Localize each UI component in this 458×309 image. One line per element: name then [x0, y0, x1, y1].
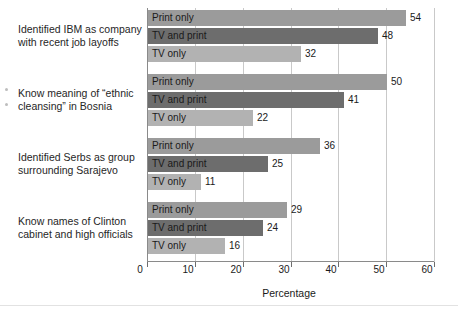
category-label-line: Know meaning of “ethnic: [18, 87, 144, 100]
bar-series-label: TV only: [152, 49, 186, 59]
x-axis-tick: [338, 262, 339, 267]
bar-value-label: 41: [348, 95, 359, 105]
bar-series-label: TV and print: [152, 95, 206, 105]
category-label-line: with recent job layoffs: [18, 36, 144, 49]
bar-value-label: 22: [257, 113, 268, 123]
bar-value-label: 32: [305, 49, 316, 59]
x-axis-tick-label: 50: [373, 264, 384, 275]
bar-value-label: 54: [410, 13, 421, 23]
bar: Print only54: [148, 10, 406, 26]
x-axis-title-text: Percentage: [142, 287, 316, 299]
bar-series-label: TV and print: [152, 159, 206, 169]
bar: TV and print41: [148, 92, 344, 108]
bar: TV only11: [148, 174, 201, 190]
bar-series-label: TV only: [152, 177, 186, 187]
bar-chart: Identified IBM as companywith recent job…: [0, 0, 458, 309]
x-axis-tick-label: 10: [182, 264, 193, 275]
bar: TV only32: [148, 46, 301, 62]
bar-series-label: TV and print: [152, 31, 206, 41]
category-label: Know meaning of “ethniccleansing” in Bos…: [18, 87, 144, 112]
bar-value-label: 36: [324, 141, 335, 151]
bar-series-label: TV only: [152, 241, 186, 251]
bar-series-label: Print only: [152, 141, 194, 151]
bar-series-label: Print only: [152, 13, 194, 23]
x-axis-tick: [147, 262, 148, 267]
gridline: [434, 8, 435, 262]
x-axis-tick: [434, 262, 435, 267]
scan-artifact: [5, 88, 8, 91]
bar: TV only16: [148, 238, 225, 254]
x-axis-tick-label: 60: [421, 264, 432, 275]
bar-series-label: TV only: [152, 113, 186, 123]
category-label-line: cleansing” in Bosnia: [18, 100, 144, 113]
x-axis-tick-label: 40: [325, 264, 336, 275]
category-label: Identified Serbs as groupsurrounding Sar…: [18, 151, 144, 176]
x-axis-tick: [195, 262, 196, 267]
bar-value-label: 50: [391, 77, 402, 87]
gridline: [386, 8, 387, 262]
category-label-line: Identified IBM as company: [18, 23, 144, 36]
category-label-line: surrounding Sarajevo: [18, 164, 144, 177]
x-axis-tick: [291, 262, 292, 267]
bar: TV and print48: [148, 28, 378, 44]
category-label-line: Identified Serbs as group: [18, 151, 144, 164]
bar: Print only50: [148, 74, 387, 90]
x-axis-tick: [243, 262, 244, 267]
category-label: Identified IBM as companywith recent job…: [18, 23, 144, 48]
x-axis-tick-label: 30: [278, 264, 289, 275]
bar-value-label: 25: [272, 159, 283, 169]
bar: Print only29: [148, 202, 287, 218]
bar: Print only36: [148, 138, 320, 154]
bar-value-label: 16: [229, 241, 240, 251]
x-axis-title: Percentage: [0, 287, 458, 299]
bar: TV and print25: [148, 156, 268, 172]
category-label-line: cabinet and high officials: [18, 228, 144, 241]
gridline: [338, 8, 339, 262]
category-label: Know names of Clintoncabinet and high of…: [18, 215, 144, 240]
bar-value-label: 11: [205, 177, 215, 187]
bar-series-label: Print only: [152, 77, 194, 87]
plot-area: Print only54TV and print48TV only32Print…: [147, 8, 434, 262]
bar-value-label: 29: [291, 205, 302, 215]
x-axis-tick: [386, 262, 387, 267]
bar: TV and print24: [148, 220, 263, 236]
category-label-line: Know names of Clinton: [18, 215, 144, 228]
bar-value-label: 48: [382, 31, 393, 41]
bar: TV only22: [148, 110, 253, 126]
page-bottom-rule: [0, 305, 458, 306]
x-axis-tick-label: 0: [137, 264, 143, 275]
bar-series-label: TV and print: [152, 223, 206, 233]
x-axis-tick-label: 20: [230, 264, 241, 275]
bar-value-label: 24: [267, 223, 278, 233]
scan-artifact: [5, 103, 8, 106]
bar-series-label: Print only: [152, 205, 194, 215]
